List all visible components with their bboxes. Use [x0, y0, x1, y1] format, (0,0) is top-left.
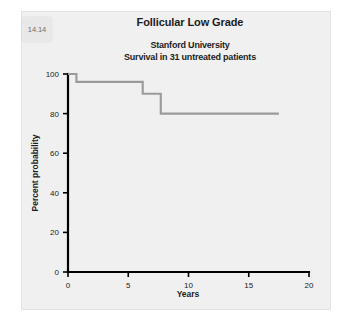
y-axis-ticks: 020406080100: [46, 70, 68, 277]
plot-area: 020406080100 05101520 Percent probabilit…: [0, 0, 347, 327]
y-tick-label: 20: [50, 228, 59, 237]
y-tick-label: 40: [50, 189, 59, 198]
x-tick-label: 5: [126, 281, 131, 290]
x-tick-label: 0: [66, 281, 71, 290]
survival-step-curve: [68, 74, 279, 114]
x-axis-ticks: 05101520: [66, 272, 314, 290]
x-axis-title: Years: [177, 289, 200, 299]
y-tick-label: 0: [55, 268, 60, 277]
x-tick-label: 15: [244, 281, 253, 290]
y-axis-title: Percent probability: [30, 134, 40, 211]
y-tick-label: 60: [50, 149, 59, 158]
y-tick-label: 100: [46, 70, 60, 79]
figure-root: 14.14 Follicular Low Grade Stanford Univ…: [0, 0, 347, 327]
x-tick-label: 20: [305, 281, 314, 290]
y-tick-label: 80: [50, 110, 59, 119]
